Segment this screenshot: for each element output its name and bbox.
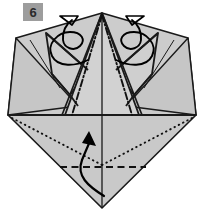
origami-diagram: 6	[0, 0, 204, 220]
origami-figure	[0, 0, 204, 220]
step-number-badge: 6	[23, 3, 43, 21]
step-number-label: 6	[29, 6, 36, 19]
